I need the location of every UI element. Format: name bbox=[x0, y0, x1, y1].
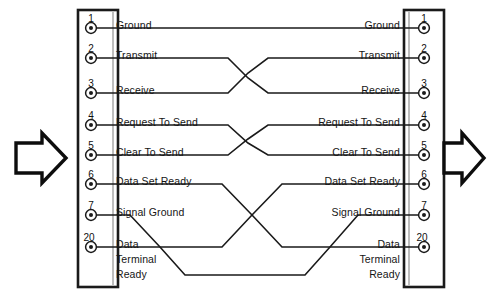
left-pin-number-1: 1 bbox=[83, 14, 99, 24]
left-signal-label-dtr-line2: Terminal bbox=[116, 253, 156, 266]
left-signal-label-dtr-line1: Data bbox=[116, 238, 139, 251]
left-pin-number-7: 7 bbox=[83, 201, 99, 211]
right-pin-number-5: 5 bbox=[416, 141, 432, 151]
right-pin-number-7: 7 bbox=[416, 201, 432, 211]
diagram-canvas: 1 2 3 4 5 6 7 20 1 2 3 4 5 6 7 20 Ground… bbox=[0, 0, 491, 297]
left-signal-label-ground: Ground bbox=[116, 19, 152, 32]
right-signal-label-transmit: Transmit bbox=[250, 49, 400, 62]
left-direction-arrow bbox=[16, 133, 66, 183]
right-pin-number-2: 2 bbox=[416, 44, 432, 54]
left-signal-label-clear-to-send: Clear To Send bbox=[116, 146, 184, 159]
left-signal-label-transmit: Transmit bbox=[116, 49, 157, 62]
right-pin-number-1: 1 bbox=[416, 14, 432, 24]
left-signal-label-data-set-ready: Data Set Ready bbox=[116, 175, 192, 188]
right-signal-label-receive: Receive bbox=[250, 84, 400, 97]
left-pin-number-4: 4 bbox=[83, 111, 99, 121]
left-pin-number-20: 20 bbox=[81, 233, 97, 243]
right-signal-label-request-to-send: Request To Send bbox=[250, 116, 400, 129]
right-signal-label-ground: Ground bbox=[250, 19, 400, 32]
right-pin-number-3: 3 bbox=[416, 79, 432, 89]
right-pin-number-20: 20 bbox=[414, 233, 430, 243]
left-pin-number-2: 2 bbox=[83, 44, 99, 54]
left-signal-label-signal-ground: Signal Ground bbox=[116, 206, 184, 219]
right-direction-arrow bbox=[444, 133, 484, 183]
left-pin-number-5: 5 bbox=[83, 141, 99, 151]
right-pin-number-4: 4 bbox=[416, 111, 432, 121]
right-signal-label-signal-ground: Signal Ground bbox=[250, 206, 400, 219]
right-signal-label-clear-to-send: Clear To Send bbox=[250, 146, 400, 159]
left-pin-sockets bbox=[86, 23, 97, 253]
right-pin-sockets bbox=[419, 23, 430, 253]
right-signal-label-dtr-line2: Terminal bbox=[250, 253, 400, 266]
right-signal-label-data-set-ready: Data Set Ready bbox=[250, 175, 400, 188]
right-signal-label-dtr-line1: Data bbox=[250, 238, 400, 251]
left-signal-label-request-to-send: Request To Send bbox=[116, 116, 198, 129]
right-pin-number-6: 6 bbox=[416, 170, 432, 180]
left-signal-label-receive: Receive bbox=[116, 84, 155, 97]
left-pin-number-6: 6 bbox=[83, 170, 99, 180]
left-pin-number-3: 3 bbox=[83, 79, 99, 89]
right-signal-label-dtr-line3: Ready bbox=[250, 268, 400, 281]
left-signal-label-dtr-line3: Ready bbox=[116, 268, 147, 281]
